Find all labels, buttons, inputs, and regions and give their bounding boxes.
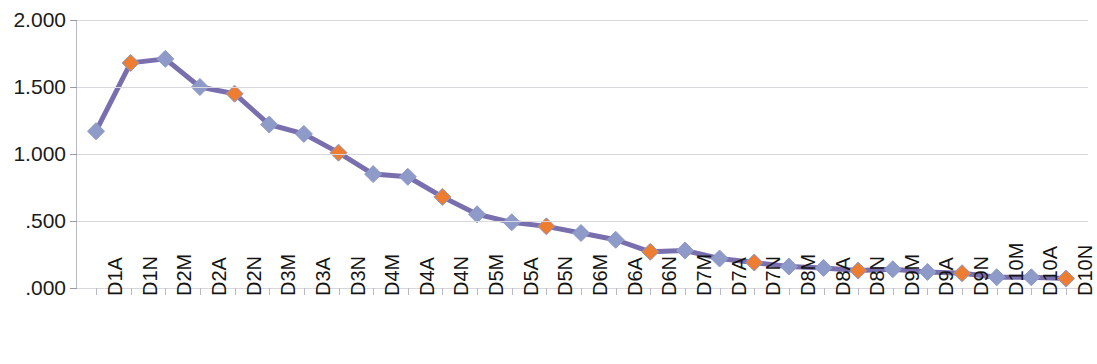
x-tick-mark: [685, 288, 686, 295]
x-tick-mark: [720, 288, 721, 295]
x-tick-mark: [477, 288, 478, 295]
x-tick-mark: [997, 288, 998, 295]
x-tick-mark: [442, 288, 443, 295]
x-tick-label: D7A: [728, 257, 751, 296]
x-tick-label: D3N: [347, 256, 370, 296]
x-tick-mark: [927, 288, 928, 295]
x-tick-mark: [893, 288, 894, 295]
x-tick-mark: [1066, 288, 1067, 295]
data-point-series-1: [573, 225, 590, 242]
x-tick-mark: [546, 288, 547, 295]
x-tick-mark: [408, 288, 409, 295]
y-tick-mark: [70, 154, 77, 155]
x-tick-label: D9M: [901, 254, 924, 296]
x-tick-label: D7M: [693, 254, 716, 296]
y-tick-label: 1.500: [13, 75, 66, 99]
y-tick-mark: [70, 87, 77, 88]
y-tick-mark: [70, 288, 77, 289]
x-tick-label: D10A: [1039, 246, 1062, 296]
x-tick-label: D10M: [1005, 243, 1028, 296]
data-point-series-1: [503, 214, 520, 231]
x-tick-mark: [304, 288, 305, 295]
x-tick-mark: [200, 288, 201, 295]
x-tick-mark: [824, 288, 825, 295]
x-tick-label: D10N: [1074, 245, 1097, 296]
x-tick-mark: [789, 288, 790, 295]
x-tick-label: D2A: [208, 257, 231, 296]
x-tick-mark: [754, 288, 755, 295]
gridline: [76, 154, 1088, 155]
x-tick-mark: [1031, 288, 1032, 295]
y-tick-label: .000: [25, 276, 66, 300]
x-tick-mark: [858, 288, 859, 295]
x-tick-mark: [165, 288, 166, 295]
y-tick-mark: [70, 20, 77, 21]
y-tick-label: 1.000: [13, 142, 66, 166]
x-tick-label: D6N: [658, 256, 681, 296]
y-tick-mark: [70, 221, 77, 222]
x-tick-label: D4N: [450, 256, 473, 296]
x-axis: D1AD1ND2MD2AD2ND3MD3AD3ND4MD4AD4ND5MD5AD…: [76, 296, 1088, 364]
x-tick-mark: [96, 288, 97, 295]
x-tick-label: D2N: [243, 256, 266, 296]
x-tick-label: D8M: [797, 254, 820, 296]
x-tick-label: D9A: [935, 257, 958, 296]
x-tick-mark: [131, 288, 132, 295]
x-tick-mark: [339, 288, 340, 295]
x-tick-mark: [373, 288, 374, 295]
x-tick-label: D1N: [139, 256, 162, 296]
gridline: [76, 87, 1088, 88]
x-tick-mark: [269, 288, 270, 295]
x-tick-mark: [616, 288, 617, 295]
x-tick-label: D1A: [104, 257, 127, 296]
x-tick-label: D5A: [520, 257, 543, 296]
x-tick-label: D2M: [173, 254, 196, 296]
x-tick-label: D4A: [416, 257, 439, 296]
plot-area: [76, 0, 1088, 300]
y-axis: 2.0001.5001.000.500.000: [0, 0, 72, 300]
data-point-series-1: [88, 123, 105, 140]
x-tick-mark: [962, 288, 963, 295]
x-tick-label: D3M: [277, 254, 300, 296]
x-tick-label: D5M: [485, 254, 508, 296]
x-tick-mark: [581, 288, 582, 295]
x-tick-mark: [235, 288, 236, 295]
x-tick-label: D8N: [866, 256, 889, 296]
data-point-series-1: [607, 231, 624, 248]
x-tick-label: D4M: [381, 254, 404, 296]
gridline: [76, 221, 1088, 222]
x-tick-label: D3A: [312, 257, 335, 296]
x-tick-label: D5N: [554, 256, 577, 296]
x-tick-label: D8A: [832, 257, 855, 296]
series-layer: [76, 0, 1088, 300]
x-tick-mark: [512, 288, 513, 295]
y-tick-label: 2.000: [13, 8, 66, 32]
x-tick-label: D6M: [589, 254, 612, 296]
x-tick-mark: [650, 288, 651, 295]
x-tick-label: D6A: [624, 257, 647, 296]
gridline: [76, 20, 1088, 21]
x-tick-label: D9N: [970, 256, 993, 296]
x-tick-label: D7N: [762, 256, 785, 296]
y-tick-label: .500: [25, 209, 66, 233]
